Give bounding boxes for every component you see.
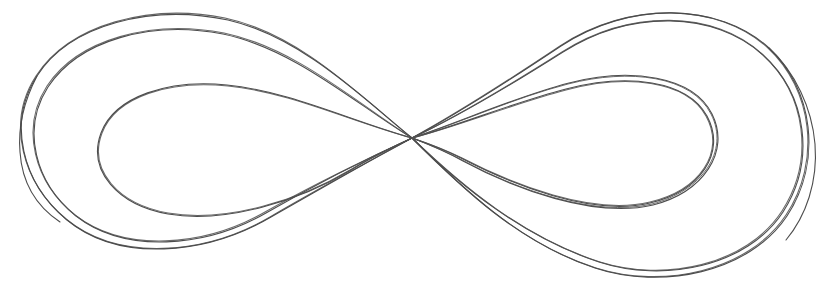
lemniscate-figure	[0, 0, 834, 292]
canvas-background	[0, 0, 834, 292]
drawing-canvas	[0, 0, 834, 292]
